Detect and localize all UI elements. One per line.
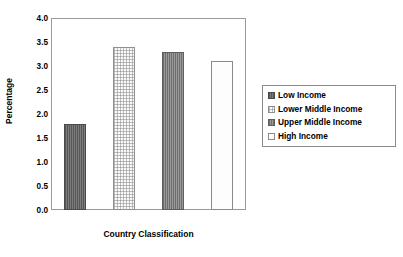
legend-swatch-icon (268, 133, 275, 140)
x-axis-title: Country Classification (51, 229, 246, 239)
legend-item-label: High Income (278, 132, 328, 141)
legend-item: Lower Middle Income (268, 103, 391, 117)
legend-item-label: Low Income (278, 91, 326, 100)
y-axis-tick-label: 4.0 (22, 14, 48, 23)
legend-swatch-icon (268, 119, 275, 126)
y-axis-tick-labels: 4.03.53.02.52.01.51.00.50.0 (22, 0, 48, 257)
legend-swatch-icon (268, 106, 275, 113)
legend-swatch-icon (268, 92, 275, 99)
y-axis-tick-label: 1.0 (22, 158, 48, 167)
y-axis-tick-label: 2.0 (22, 110, 48, 119)
y-axis-title: Percentage (4, 71, 14, 131)
bars-container (51, 18, 246, 210)
bar (162, 52, 184, 210)
legend-item-label: Lower Middle Income (278, 105, 362, 114)
y-axis-tick-label: 1.5 (22, 134, 48, 143)
y-axis-tick-label: 0.5 (22, 182, 48, 191)
chart-legend: Low IncomeLower Middle IncomeUpper Middl… (262, 85, 396, 147)
legend-item-label: Upper Middle Income (278, 118, 362, 127)
y-axis-tick-label: 2.5 (22, 86, 48, 95)
y-axis-tick-label: 3.0 (22, 62, 48, 71)
y-axis-tick-label: 3.5 (22, 38, 48, 47)
legend-item: Low Income (268, 89, 391, 103)
bar (113, 47, 135, 210)
legend-item: High Income (268, 130, 391, 144)
legend-item: Upper Middle Income (268, 116, 391, 130)
bar (64, 124, 86, 210)
bar (211, 61, 233, 210)
bar-chart: Percentage 4.03.53.02.52.01.51.00.50.0 C… (0, 0, 403, 257)
y-axis-tick-label: 0.0 (22, 206, 48, 215)
